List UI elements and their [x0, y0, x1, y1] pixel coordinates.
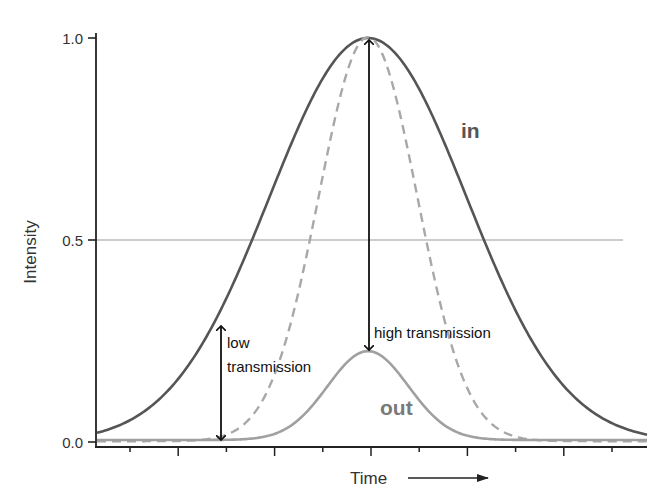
x-axis-ticks: [130, 447, 612, 456]
low-transmission-label-line2: transmission: [227, 358, 311, 375]
high-transmission-label: high transmission: [374, 324, 491, 341]
in-curve: [97, 38, 647, 435]
in-series-label: in: [461, 119, 480, 142]
low-transmission-label-line1: low: [227, 334, 250, 351]
y-axis-title: Intensity: [21, 220, 40, 284]
transmission-diagram: 1.0 0.5 0.0 Intensity Time high transmis…: [0, 0, 663, 501]
narrow-dashed-curve: [97, 37, 647, 441]
out-series-label: out: [380, 396, 413, 419]
y-tick-label-05: 0.5: [62, 232, 83, 249]
x-axis-title: Time: [350, 469, 387, 488]
out-curve: [97, 351, 647, 440]
y-tick-label-1: 1.0: [62, 30, 83, 47]
y-tick-label-0: 0.0: [62, 434, 83, 451]
